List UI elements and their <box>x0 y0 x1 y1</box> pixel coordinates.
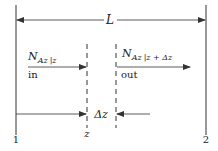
length-label: L <box>105 13 114 27</box>
shell-balance-diagram: L NAz|z in NAz|z + Δz out Δz 1 z 2 <box>0 0 218 151</box>
flux-out-symbol: N <box>121 47 132 60</box>
out-label: out <box>121 69 137 80</box>
flux-in-symbol: N <box>27 50 38 63</box>
flux-out-eval: |z + Δz <box>144 53 173 62</box>
flux-in-subscript: Az <box>37 56 49 65</box>
flux-in-eval: |z <box>50 56 58 65</box>
flux-out-label: NAz|z + Δz <box>121 47 173 62</box>
boundary-label-2: 2 <box>203 134 209 145</box>
in-label: in <box>28 69 38 80</box>
flux-in-label: NAz|z <box>27 50 57 65</box>
boundary-label-1: 1 <box>13 134 19 145</box>
z-position-label: z <box>83 128 90 139</box>
delta-z-label: Δz <box>93 108 108 121</box>
flux-out-subscript: Az <box>131 53 143 62</box>
